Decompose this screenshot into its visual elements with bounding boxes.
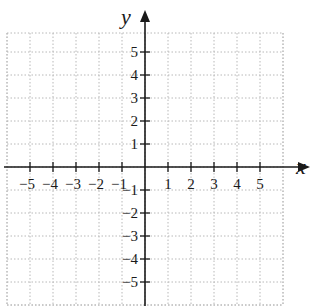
y-tick-label: 1 xyxy=(131,136,139,152)
x-tick-label: −4 xyxy=(42,176,58,192)
y-tick-label: −4 xyxy=(122,251,138,267)
y-axis-label: y xyxy=(119,4,131,29)
x-tick-label: 3 xyxy=(210,176,218,192)
x-tick-label: 5 xyxy=(256,176,264,192)
y-tick-label: −3 xyxy=(122,228,138,244)
axes xyxy=(4,10,310,306)
y-tick-label: 4 xyxy=(131,67,139,83)
y-tick-label: 2 xyxy=(131,113,139,129)
x-tick-label: 1 xyxy=(164,176,172,192)
x-tick-label: −2 xyxy=(88,176,104,192)
y-tick-label: −2 xyxy=(122,205,138,221)
y-tick-label: 3 xyxy=(131,90,139,106)
y-tick-label: −5 xyxy=(122,274,138,290)
y-axis-arrow-icon xyxy=(140,10,150,22)
x-tick-label: −3 xyxy=(65,176,81,192)
y-tick-label: −1 xyxy=(122,182,138,198)
x-tick-label: 4 xyxy=(233,176,241,192)
y-tick-label: 5 xyxy=(131,44,139,60)
coordinate-plane: −5−4−3−2−112345−5−4−3−2−112345 x y xyxy=(0,0,314,308)
x-tick-label: −5 xyxy=(19,176,35,192)
x-axis-label: x xyxy=(295,154,306,179)
x-tick-label: 2 xyxy=(187,176,195,192)
